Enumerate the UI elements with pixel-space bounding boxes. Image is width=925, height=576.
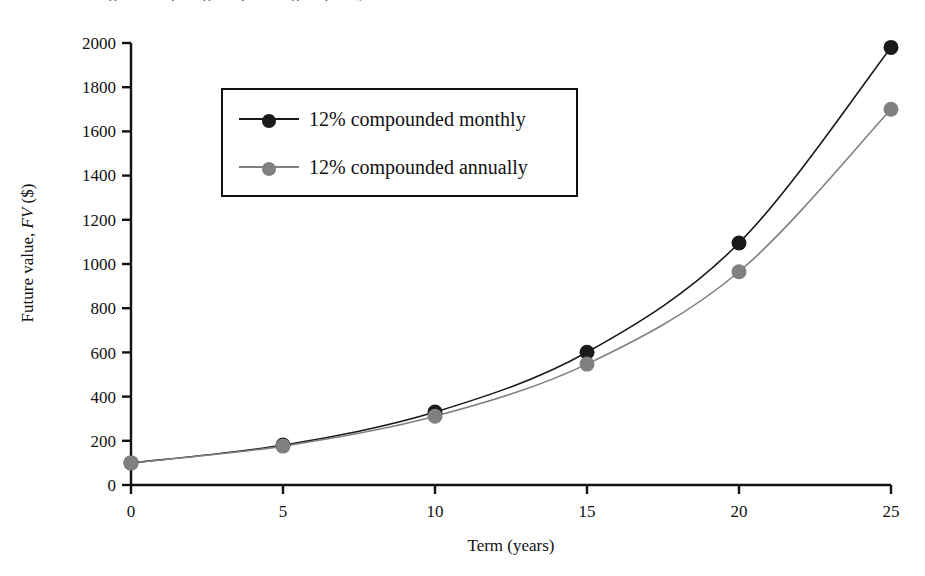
legend-label-monthly: 12% compounded monthly [309, 109, 526, 129]
chart-figure: Figure: comparing compounding frequency … [0, 0, 925, 576]
legend-item-annually: 12% compounded annually [239, 152, 528, 182]
legend-item-monthly: 12% compounded monthly [239, 104, 526, 134]
legend-key-monthly-icon [239, 111, 299, 127]
x-axis-ticks [131, 485, 891, 494]
legend-key-annually-icon [239, 159, 299, 175]
legend-label-annually: 12% compounded annually [309, 157, 528, 177]
plot-area [0, 0, 925, 576]
y-axis-ticks [122, 43, 131, 485]
legend: 12% compounded monthly 12% compounded an… [221, 88, 578, 197]
